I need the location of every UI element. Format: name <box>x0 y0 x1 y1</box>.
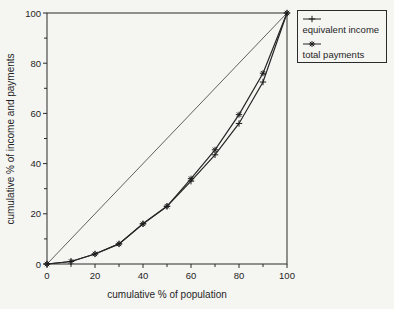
star-marker <box>116 241 122 247</box>
y-tick-label: 0 <box>36 259 41 270</box>
star-marker <box>68 258 74 264</box>
y-tick-label: 20 <box>30 208 41 219</box>
equality-reference-line <box>47 13 287 264</box>
star-marker <box>212 147 218 153</box>
chart-canvas: 020406080100020406080100 cumulative % of… <box>0 0 394 309</box>
x-tick-label: 20 <box>90 270 101 281</box>
star-marker <box>188 176 194 182</box>
plus-marker <box>260 79 266 85</box>
star-marker <box>140 221 146 227</box>
star-marker <box>44 261 50 267</box>
star-marker <box>92 251 98 257</box>
star-marker <box>284 10 290 16</box>
legend: equivalent income total payments <box>298 11 387 63</box>
x-tick-label: 100 <box>279 270 295 281</box>
x-tick-label: 0 <box>44 270 49 281</box>
axes-layer: 020406080100020406080100 <box>25 8 295 282</box>
lorenz-curve-figure: 020406080100020406080100 cumulative % of… <box>0 0 394 309</box>
x-tick-label: 60 <box>186 270 197 281</box>
y-tick-label: 60 <box>30 108 41 119</box>
y-tick-label: 40 <box>30 158 41 169</box>
y-tick-label: 100 <box>25 8 41 19</box>
star-marker <box>260 70 266 76</box>
star-marker <box>309 41 315 47</box>
y-tick-label: 80 <box>30 58 41 69</box>
star-marker <box>164 203 170 209</box>
y-axis-title: cumulative % of income and payments <box>5 53 16 224</box>
x-tick-label: 80 <box>234 270 245 281</box>
legend-label-equivalent-income: equivalent income <box>303 24 380 35</box>
x-axis-title: cumulative % of population <box>107 289 227 300</box>
x-tick-label: 40 <box>138 270 149 281</box>
star-marker <box>236 112 242 118</box>
legend-label-total-payments: total payments <box>303 49 365 60</box>
data-series-layer <box>44 10 290 267</box>
